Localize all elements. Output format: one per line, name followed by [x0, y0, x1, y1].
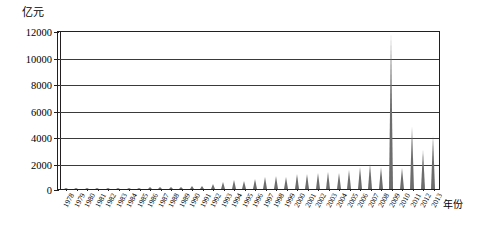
y-axis-tick-label: 8000 [31, 80, 52, 91]
bar [316, 173, 320, 189]
y-axis-tick-mark [54, 112, 59, 113]
chart-container: 亿元 020004000600080001000012000 197819791… [0, 0, 477, 229]
x-axis-tick-mark [98, 189, 99, 191]
y-axis-tick-mark [54, 138, 59, 139]
y-axis-tick-mark [54, 85, 59, 86]
bar [232, 180, 236, 189]
y-axis-tick-label: 12000 [26, 27, 52, 38]
bar [431, 136, 435, 189]
x-axis-tick-mark [140, 189, 141, 191]
bar [295, 174, 299, 189]
plot-area: 020004000600080001000012000 [57, 31, 440, 190]
x-axis-tick-mark [203, 189, 204, 191]
y-axis-tick-label: 0 [47, 185, 52, 196]
bar [389, 33, 393, 189]
bar [274, 176, 278, 189]
x-axis-unit-label: 年份 [443, 199, 463, 210]
y-axis-tick-label: 4000 [31, 133, 52, 144]
x-axis-tick-mark [224, 189, 225, 191]
bar [410, 127, 414, 189]
bar [358, 167, 362, 189]
bar [337, 173, 341, 189]
y-axis-tick-mark [54, 32, 59, 33]
x-axis-tick-mark [287, 189, 288, 191]
bar [242, 181, 246, 189]
bar [347, 170, 351, 189]
bar [379, 167, 383, 189]
x-axis-tick-mark [182, 189, 183, 191]
bar [326, 172, 330, 189]
y-axis-tick-label: 6000 [31, 106, 52, 117]
x-axis-tick-mark [434, 189, 435, 191]
bar [284, 177, 288, 189]
bar [263, 177, 267, 189]
x-axis-tick-mark [77, 189, 78, 191]
y-axis-tick-mark [54, 59, 59, 60]
x-axis-tick-mark [392, 189, 393, 191]
x-axis-tick-mark [266, 189, 267, 191]
y-axis-unit-label: 亿元 [22, 7, 44, 19]
x-axis-tick-mark [245, 189, 246, 191]
bar [400, 168, 404, 189]
bar [305, 174, 309, 189]
bar [221, 182, 225, 189]
x-axis-tick-labels: 1978197919801981198219831984198519861987… [57, 192, 440, 222]
x-axis-tick-mark [119, 189, 120, 191]
y-axis-tick-label: 2000 [31, 159, 52, 170]
x-axis-tick-mark [371, 189, 372, 191]
x-axis-tick-mark [413, 189, 414, 191]
bar [421, 150, 425, 189]
x-axis-tick-mark [350, 189, 351, 191]
bar [253, 179, 257, 189]
bar [368, 164, 372, 189]
y-axis-tick-mark [54, 190, 59, 191]
bar-series [61, 32, 439, 189]
x-axis-tick-mark [308, 189, 309, 191]
y-axis-tick-mark [54, 165, 59, 166]
x-axis-tick-mark [329, 189, 330, 191]
y-axis-tick-label: 10000 [26, 53, 52, 64]
x-axis-tick-mark [161, 189, 162, 191]
